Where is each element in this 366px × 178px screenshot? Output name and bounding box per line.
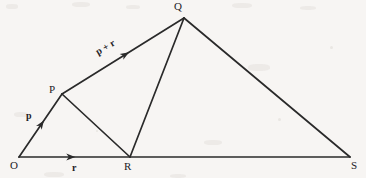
vertex-label-Q: Q [174, 1, 182, 12]
segment-PR [62, 94, 130, 157]
vertex-label-P: P [49, 84, 55, 95]
vertex-label-S: S [351, 160, 357, 171]
vertex-label-O: O [10, 160, 18, 171]
segment-PQ [62, 18, 184, 94]
vector-diagram-figure: O P Q R S p r p + r [0, 0, 366, 178]
arrowhead-OP [36, 120, 44, 129]
vertex-label-R: R [124, 161, 131, 172]
segment-QS [184, 18, 350, 157]
arrowhead-PQ [120, 52, 129, 60]
segments-group [19, 18, 350, 157]
vector-label-p: p [26, 111, 32, 121]
vector-label-r: r [72, 163, 76, 173]
segment-QR [130, 18, 184, 157]
